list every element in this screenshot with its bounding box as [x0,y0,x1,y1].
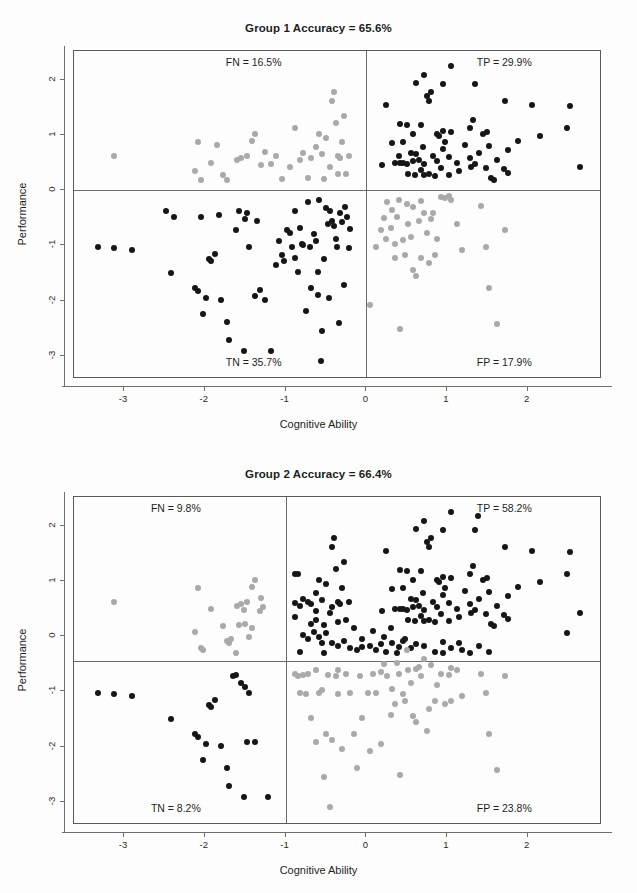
scatter-point-true-negative [111,245,117,251]
quadrant-label-fn: FN = 16.5% [226,56,282,68]
x-tick-label: -1 [280,839,288,850]
x-tick [204,386,205,391]
scatter-point-false-positive [446,672,452,678]
scatter-point-true-negative [327,208,333,214]
scatter-point-true-negative [212,697,218,703]
scatter-point-true-positive [341,638,347,644]
scatter-point-false-negative [327,164,333,170]
scatter-point-false-positive [494,767,500,773]
scatter-point-true-positive [436,133,442,139]
scatter-point-false-positive [483,690,489,696]
scatter-point-true-positive [373,647,379,653]
scatter-point-false-positive [394,660,400,666]
scatter-point-true-positive [476,150,482,156]
scatter-point-false-positive [321,774,327,780]
scatter-point-true-negative [303,308,309,314]
scatter-point-true-positive [476,596,482,602]
scatter-point-false-negative [249,584,255,590]
x-tick [285,832,286,837]
scatter-point-true-positive [505,170,511,176]
scatter-point-true-positive [467,601,473,607]
scatter-point-false-positive [339,746,345,752]
scatter-point-true-positive [426,98,432,104]
scatter-point-true-negative [273,262,279,268]
scatter-point-true-positive [505,616,511,622]
scatter-point-true-positive [346,599,352,605]
scatter-point-false-negative [192,629,198,635]
scatter-point-true-negative [257,287,263,293]
scatter-point-false-positive [335,667,341,673]
scatter-point-true-positive [476,643,482,649]
scatter-point-true-positive [410,131,416,137]
scatter-point-true-positive [459,647,465,653]
quadrant-label-tp: TP = 58.2% [477,502,532,514]
scatter-point-false-negative [297,157,303,163]
scatter-point-false-negative [224,177,230,183]
scatter-point-false-positive [483,244,489,250]
x-tick-label: -3 [119,393,127,404]
scatter-point-false-positive [502,227,508,233]
scatter-point-true-negative [336,320,342,326]
scatter-point-false-positive [459,247,465,253]
scatter-point-true-positive [564,125,570,131]
scatter-point-true-positive [383,102,389,108]
scatter-point-true-positive [564,571,570,577]
scatter-point-true-negative [308,285,314,291]
scatter-point-true-positive [335,643,341,649]
scatter-point-true-positive [529,102,535,108]
panel-1-x-axis-title: Cognitive Ability [0,418,637,430]
scatter-point-false-positive [448,197,454,203]
scatter-point-true-positive [456,640,462,646]
scatter-point-true-negative [129,693,135,699]
scatter-point-true-negative [305,199,311,205]
scatter-point-false-negative [273,153,279,159]
scatter-point-false-negative [249,625,255,631]
scatter-point-false-positive [388,712,394,718]
scatter-point-true-positive [486,589,492,595]
scatter-point-true-negative [129,247,135,253]
scatter-point-true-positive [323,581,329,587]
scatter-point-true-negative [311,231,317,237]
y-tick [60,189,65,190]
scatter-point-true-positive [389,140,395,146]
scatter-point-false-negative [246,634,252,640]
panel-1-title: Group 1 Accuracy = 65.6% [0,22,637,34]
scatter-point-true-negative [244,210,250,216]
scatter-point-true-negative [224,319,230,325]
scatter-point-true-positive [421,72,427,78]
y-axis-line [64,492,65,832]
scatter-point-false-positive [313,739,319,745]
scatter-point-true-positive [333,566,339,572]
scatter-point-false-positive [454,221,460,227]
scatter-point-false-negative [308,155,314,161]
x-tick-label: -2 [200,393,208,404]
scatter-point-false-positive [421,210,427,216]
scatter-point-true-negative [254,218,260,224]
scatter-point-false-negative [252,131,258,137]
scatter-point-false-positive [303,691,309,697]
x-tick [285,386,286,391]
scatter-point-false-positive [323,731,329,737]
panel-2-title: Group 2 Accuracy = 66.4% [0,468,637,480]
scatter-point-true-positive [426,544,432,550]
scatter-point-false-positive [478,203,484,209]
scatter-point-true-negative [339,219,345,225]
scatter-point-true-positive [515,138,521,144]
scatter-point-false-negative [198,177,204,183]
scatter-point-true-negative [241,348,247,354]
scatter-point-true-positive [440,650,446,656]
scatter-point-true-negative [203,295,209,301]
scatter-point-true-positive [446,618,452,624]
quadrant-label-tn: TN = 8.2% [151,802,201,814]
scatter-point-false-positive [438,671,444,677]
scatter-point-true-positive [486,649,492,655]
y-tick [60,746,65,747]
scatter-point-true-positive [505,593,511,599]
scatter-point-false-negative [300,150,306,156]
scatter-point-false-negative [195,585,201,591]
scatter-point-true-positive [440,146,446,152]
scatter-point-false-positive [392,255,398,261]
x-tick [204,832,205,837]
scatter-point-false-positive [418,198,424,204]
scatter-point-true-positive [341,559,347,565]
